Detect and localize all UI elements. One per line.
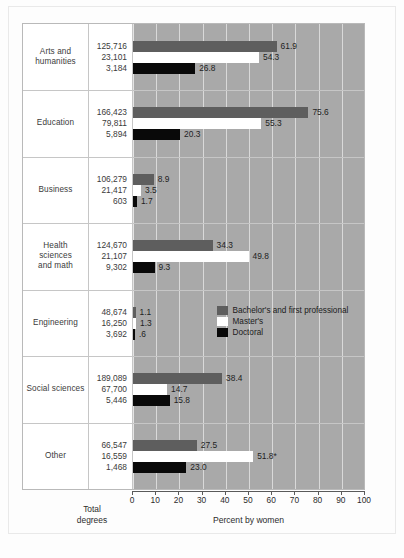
category-label-line: sciences bbox=[23, 251, 88, 261]
bar-value-label: 75.6 bbox=[312, 107, 328, 118]
gridline bbox=[203, 356, 204, 422]
row-separator bbox=[23, 356, 364, 357]
x-tick-label: 60 bbox=[267, 495, 276, 505]
category-label-line: Social sciences bbox=[23, 384, 88, 394]
x-tick-label: 10 bbox=[151, 495, 160, 505]
gridline bbox=[249, 356, 250, 422]
gridline bbox=[156, 290, 157, 356]
total-degrees-value: 79,811 bbox=[102, 118, 127, 129]
x-tick-label: 30 bbox=[197, 495, 206, 505]
bar-value-label: 34.3 bbox=[217, 240, 233, 251]
row-separator bbox=[23, 157, 364, 158]
total-degrees-value: 5,446 bbox=[106, 395, 127, 406]
gridline bbox=[203, 290, 204, 356]
bar-value-label: 26.8 bbox=[199, 63, 215, 74]
chart-legend: Bachelor's and first professionalMaster'… bbox=[217, 306, 349, 339]
bar-value-label: 38.4 bbox=[226, 373, 242, 384]
category-label: Engineering bbox=[23, 318, 88, 328]
total-degrees-value: 5,894 bbox=[106, 129, 127, 140]
total-degrees-value: 3,692 bbox=[106, 329, 127, 340]
legend-swatch-bachelor bbox=[217, 306, 228, 315]
totals-caption-line2: degrees bbox=[66, 515, 118, 526]
category-label-line: humanities bbox=[23, 57, 88, 67]
plot-band: 38.414.715.8 bbox=[133, 356, 365, 422]
gridline bbox=[342, 423, 343, 489]
category-label-line: Arts and bbox=[23, 47, 88, 57]
bar-value-label: 3.5 bbox=[145, 185, 157, 196]
legend-label: Doctoral bbox=[233, 328, 264, 337]
total-degrees-value: 66,547 bbox=[101, 440, 127, 451]
bar-value-label: 20.3 bbox=[184, 129, 200, 140]
total-degrees-value: 21,107 bbox=[101, 251, 127, 262]
bar-master bbox=[133, 384, 167, 395]
chart-row: 38.414.715.8Social sciences189,08967,700… bbox=[23, 356, 364, 422]
category-label: Education bbox=[23, 118, 88, 128]
category-label: Social sciences bbox=[23, 384, 88, 394]
category-label-line: Business bbox=[23, 185, 88, 195]
total-degrees-value: 125,716 bbox=[97, 41, 127, 52]
total-degrees-value: 189,089 bbox=[97, 373, 127, 384]
category-label: Healthsciencesand math bbox=[23, 241, 88, 271]
plot-band: 61.954.326.8 bbox=[133, 24, 365, 90]
plot-band: 1.11.3.6Bachelor's and first professiona… bbox=[133, 290, 365, 356]
legend-swatch-doctoral bbox=[217, 328, 228, 337]
legend-label: Bachelor's and first professional bbox=[233, 306, 349, 315]
bar-value-label: 15.8 bbox=[174, 395, 190, 406]
legend-label: Master's bbox=[233, 317, 264, 326]
total-degrees-value: 1,468 bbox=[106, 462, 127, 473]
total-degrees-value: 9,302 bbox=[106, 262, 127, 273]
totals-caption-line1: Total bbox=[66, 504, 118, 515]
total-degrees-cell: 124,67021,1079,302 bbox=[89, 223, 131, 289]
gridline bbox=[319, 157, 320, 223]
bar-value-label: 1.1 bbox=[140, 307, 152, 318]
bar-value-label: 54.3 bbox=[263, 52, 279, 63]
chart-row: 8.93.51.7Business106,27921,417603 bbox=[23, 157, 364, 223]
chart-row: 34.349.89.3Healthsciencesand math124,670… bbox=[23, 223, 364, 289]
row-separator bbox=[23, 223, 364, 224]
gridline bbox=[272, 356, 273, 422]
gridline bbox=[249, 157, 250, 223]
bar-value-label: 61.9 bbox=[281, 41, 297, 52]
total-degrees-value: 21,417 bbox=[101, 185, 127, 196]
total-degrees-value: 106,279 bbox=[97, 174, 127, 185]
gridline bbox=[319, 356, 320, 422]
category-label-line: Other bbox=[23, 451, 88, 461]
row-separator bbox=[23, 423, 364, 424]
bar-value-label: 27.5 bbox=[201, 440, 217, 451]
bar-value-label: 14.7 bbox=[171, 384, 187, 395]
bar-bachelor bbox=[133, 240, 213, 251]
x-tick-label: 40 bbox=[220, 495, 229, 505]
bar-value-label: 1.3 bbox=[140, 318, 152, 329]
total-degrees-cell: 66,54716,5591,468 bbox=[89, 423, 131, 489]
bar-master bbox=[133, 251, 249, 262]
x-tick-label: 0 bbox=[130, 495, 135, 505]
total-degrees-value: 124,670 bbox=[97, 240, 127, 251]
x-tick-label: 100 bbox=[357, 495, 371, 505]
bar-bachelor bbox=[133, 41, 277, 52]
gridline bbox=[342, 157, 343, 223]
totals-column-caption: Total degrees bbox=[66, 504, 118, 525]
gridline bbox=[342, 90, 343, 156]
category-label: Business bbox=[23, 185, 88, 195]
bar-master bbox=[133, 118, 261, 129]
chart-row: 1.11.3.6Bachelor's and first professiona… bbox=[23, 290, 364, 356]
chart-page: 61.954.326.8Arts andhumanities125,71623,… bbox=[0, 0, 404, 558]
bar-bachelor bbox=[133, 307, 136, 318]
chart-rows: 61.954.326.8Arts andhumanities125,71623,… bbox=[23, 24, 364, 489]
gridline bbox=[319, 223, 320, 289]
plot-band: 27.551.8*23.0 bbox=[133, 423, 365, 489]
category-label-line: and math bbox=[23, 261, 88, 271]
x-tick-label: 80 bbox=[313, 495, 322, 505]
gridline bbox=[342, 356, 343, 422]
legend-item: Bachelor's and first professional bbox=[217, 306, 349, 316]
plot-band: 34.349.89.3 bbox=[133, 223, 365, 289]
x-axis: 0102030405060708090100 Percent by women bbox=[132, 491, 365, 500]
bar-value-label: 55.3 bbox=[265, 118, 281, 129]
category-label-line: Health bbox=[23, 241, 88, 251]
gridline bbox=[272, 157, 273, 223]
total-degrees-cell: 48,67416,2503,692 bbox=[89, 290, 131, 356]
bar-doctoral bbox=[133, 329, 135, 340]
category-label: Other bbox=[23, 451, 88, 461]
gridline bbox=[319, 90, 320, 156]
chart-row: 61.954.326.8Arts andhumanities125,71623,… bbox=[23, 24, 364, 90]
